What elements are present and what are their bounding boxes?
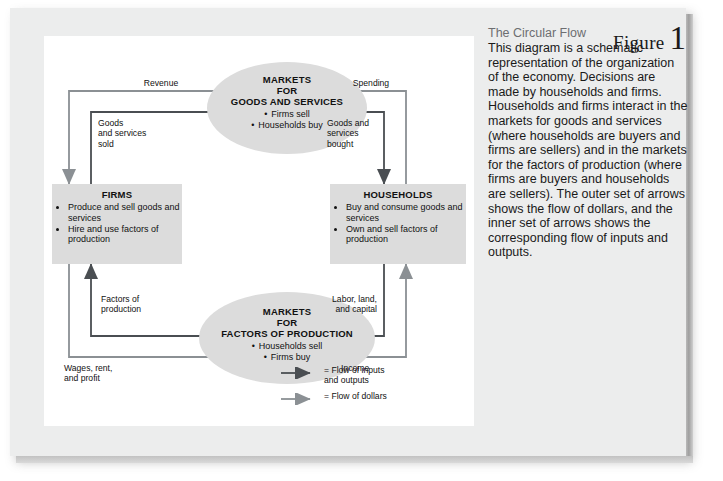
figure-page: Figure1 The Circular Flow This diagram i… xyxy=(0,0,723,481)
circular-flow-diagram: MARKETS FOR GOODS AND SERVICES Firms sel… xyxy=(44,36,474,426)
node-bullet-list: Produce and sell goods and services Hire… xyxy=(52,202,182,245)
node-bullet-item: Produce and sell goods and services xyxy=(68,202,180,223)
flow-label-labor-land-and-capital: Labor, land, and capital xyxy=(297,294,377,315)
diagram-legend: = Flow of inputs and outputs = Flow of d… xyxy=(280,366,430,414)
flow-label-goods-and-services-sold: Goods and services sold xyxy=(98,118,176,149)
figure-description-body: This diagram is a schematic representati… xyxy=(488,41,688,260)
node-title: HOUSEHOLDS xyxy=(330,184,466,200)
legend-label: = Flow of dollars xyxy=(324,391,387,401)
node-bullet-item: Firms buy xyxy=(199,352,375,363)
figure-description-panel: The Circular Flow This diagram is a sche… xyxy=(488,26,688,316)
node-title: FIRMS xyxy=(52,184,182,200)
node-bullet-item: Own and sell factors of production xyxy=(346,224,464,245)
flow-label-revenue: Revenue xyxy=(126,78,196,88)
dark-arrow-icon xyxy=(280,367,320,379)
node-bullet-item: Households sell xyxy=(199,341,375,352)
flow-label-goods-and-services-bought: Goods and services bought xyxy=(327,118,397,149)
legend-row-dollars: = Flow of dollars xyxy=(280,392,430,414)
legend-label: = Flow of inputs and outputs xyxy=(324,365,384,386)
light-arrow-icon xyxy=(280,393,320,405)
flow-label-factors-of-production: Factors of production xyxy=(101,294,181,315)
flow-label-wages-rent-and-profit: Wages, rent, and profit xyxy=(64,363,148,384)
figure-description-title: The Circular Flow xyxy=(488,26,688,40)
legend-row-inputs-outputs: = Flow of inputs and outputs xyxy=(280,366,430,388)
node-bullet-item: Hire and use factors of production xyxy=(68,224,180,245)
flow-label-spending: Spending xyxy=(339,78,403,88)
node-households: HOUSEHOLDS Buy and consume goods and ser… xyxy=(330,184,466,264)
node-firms: FIRMS Produce and sell goods and service… xyxy=(52,184,182,264)
node-bullet-list: Households sell Firms buy xyxy=(199,341,375,363)
page-edge-bottom xyxy=(16,456,693,463)
node-bullet-list: Buy and consume goods and services Own a… xyxy=(330,202,466,245)
node-bullet-item: Buy and consume goods and services xyxy=(346,202,464,223)
